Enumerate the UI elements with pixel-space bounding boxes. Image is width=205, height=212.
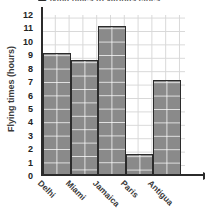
y-tick-11: 11 <box>23 23 33 33</box>
bar-delhi <box>43 53 71 174</box>
y-tick-0: 0 <box>28 171 33 181</box>
x-axis-arrow-icon <box>203 172 205 180</box>
bar-jamaica <box>98 26 126 174</box>
bar-chart: Flying times to various cities Flying ti… <box>0 0 205 212</box>
plot-area <box>41 15 185 176</box>
bar-miami <box>71 60 99 174</box>
y-axis-tick-labels: 1211109876543210 <box>0 15 38 176</box>
x-tick-miami: Miami <box>64 178 88 202</box>
y-axis-arrow-icon <box>38 0 46 1</box>
bar-series <box>43 15 185 174</box>
x-tick-paris: Paris <box>119 178 141 200</box>
x-tick-jamaica: Jamaica <box>91 178 122 209</box>
y-tick-12: 12 <box>23 10 33 20</box>
bar-slot <box>71 15 99 174</box>
bar-slot <box>98 15 126 174</box>
x-tick-delhi: Delhi <box>36 178 58 200</box>
y-tick-1: 1 <box>28 158 33 168</box>
bar-slot <box>126 15 154 174</box>
y-tick-5: 5 <box>28 104 33 114</box>
bar-paris <box>126 154 154 174</box>
y-tick-4: 4 <box>28 117 33 127</box>
bar-antigua <box>153 80 181 174</box>
y-tick-7: 7 <box>28 77 33 87</box>
y-tick-2: 2 <box>28 144 33 154</box>
y-axis-line <box>41 7 43 176</box>
x-axis-tick-labels: DelhiMiamiJamaicaParisAntigua <box>41 178 191 212</box>
bar-slot <box>153 15 181 174</box>
y-tick-8: 8 <box>28 64 33 74</box>
y-tick-9: 9 <box>28 50 33 60</box>
x-axis-line <box>41 174 204 176</box>
chart-title: Flying times to various cities <box>0 0 205 1</box>
bar-slot <box>43 15 71 174</box>
y-tick-3: 3 <box>28 131 33 141</box>
x-tick-antigua: Antigua <box>146 178 175 207</box>
y-tick-6: 6 <box>28 91 33 101</box>
y-tick-10: 10 <box>23 37 33 47</box>
